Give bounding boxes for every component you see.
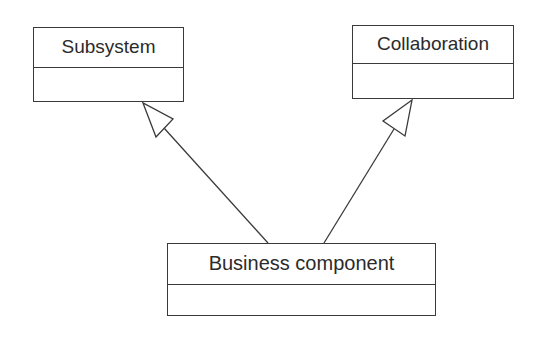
- class-subsystem[interactable]: Subsystem: [33, 27, 184, 102]
- generalization-line-collaboration: [324, 129, 394, 243]
- hollow-triangle-arrow-icon: [383, 100, 412, 136]
- class-name: Business component: [168, 244, 435, 285]
- class-name: Collaboration: [353, 26, 513, 64]
- class-name: Subsystem: [34, 28, 183, 68]
- generalization-line-subsystem: [164, 128, 268, 243]
- hollow-triangle-arrow-icon: [143, 103, 173, 137]
- class-collaboration[interactable]: Collaboration: [352, 25, 514, 99]
- class-business-component[interactable]: Business component: [167, 243, 436, 316]
